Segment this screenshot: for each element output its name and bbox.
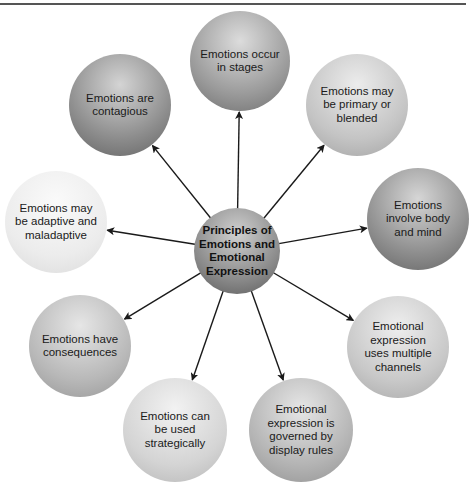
node-primary-blended: Emotions may be primary or blended	[306, 54, 408, 156]
central-concept-label: Principles of Emotions and Emotional Exp…	[198, 224, 276, 278]
node-label: Emotions may be primary or blended	[316, 85, 398, 126]
node-multiple-channels: Emotional expression uses multiple chann…	[347, 296, 449, 398]
arrow-to-strategically	[192, 290, 223, 380]
node-label: Emotions involve body and mind	[377, 199, 459, 240]
node-contagious: Emotions are contagious	[69, 54, 171, 156]
node-label: Emotions have consequences	[39, 333, 121, 360]
node-strategically: Emotions can be used strategically	[123, 378, 227, 482]
node-body-mind: Emotions involve body and mind	[367, 168, 469, 270]
arrow-to-body-mind	[277, 228, 366, 244]
node-display-rules: Emotional expression is governed by disp…	[249, 378, 353, 482]
arrow-to-contagious	[153, 146, 212, 219]
central-concept-node: Principles of Emotions and Emotional Exp…	[194, 208, 280, 294]
node-label: Emotions occur in stages	[200, 48, 280, 75]
node-adaptive-maladaptive: Emotions may be adaptive and maladaptive	[5, 171, 107, 273]
node-label: Emotional expression is governed by disp…	[259, 403, 343, 457]
node-label: Emotions may be adaptive and maladaptive	[15, 202, 97, 243]
arrow-to-consequences	[125, 272, 202, 319]
node-consequences: Emotions have consequences	[29, 295, 131, 397]
arrow-to-display-rules	[251, 290, 283, 381]
arrow-to-primary-blended	[263, 145, 324, 219]
arrow-to-stages	[238, 112, 240, 210]
node-stages: Emotions occur in stages	[190, 11, 290, 111]
node-label: Emotions can be used strategically	[133, 410, 217, 451]
node-label: Emotions are contagious	[79, 92, 161, 119]
node-label: Emotional expression uses multiple chann…	[357, 320, 439, 374]
arrow-to-adaptive-maladaptive	[107, 230, 196, 244]
arrow-to-multiple-channels	[272, 272, 353, 320]
